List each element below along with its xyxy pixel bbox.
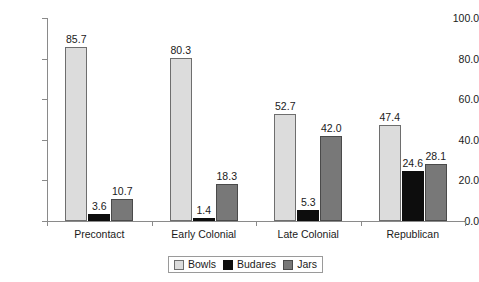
category-label-late-colonial: Late Colonial [256, 228, 361, 240]
category-label-republican: Republican [361, 228, 466, 240]
legend-label: Budares [237, 259, 276, 270]
bar-value-label: 42.0 [314, 123, 348, 134]
plot-area: 85.73.610.780.31.418.352.75.342.047.424.… [47, 18, 465, 221]
bar-value-label: 18.3 [210, 171, 244, 182]
legend-label: Bowls [188, 259, 216, 270]
bar-budares-late-colonial [297, 210, 319, 221]
category-label-early-colonial: Early Colonial [152, 228, 257, 240]
bar-jars-republican [425, 164, 447, 221]
legend-item-budares[interactable]: Budares [223, 259, 276, 270]
legend-label: Jars [297, 259, 317, 270]
bar-value-label: 52.7 [268, 101, 302, 112]
bar-value-label: 80.3 [164, 45, 198, 56]
bar-budares-early-colonial [193, 218, 215, 221]
bar-chart: 0.020.040.060.080.0100.0 85.73.610.780.3… [0, 0, 479, 282]
bar-value-label: 47.4 [373, 112, 407, 123]
bar-bowls-precontact [65, 47, 87, 221]
bar-value-label: 28.1 [419, 151, 453, 162]
bar-jars-early-colonial [216, 184, 238, 221]
bar-jars-late-colonial [320, 136, 342, 221]
chart-legend: BowlsBudaresJars [168, 256, 323, 273]
x-axis-tick [465, 221, 466, 226]
legend-item-bowls[interactable]: Bowls [174, 259, 216, 270]
bar-bowls-early-colonial [170, 58, 192, 221]
legend-item-jars[interactable]: Jars [283, 259, 317, 270]
x-axis-tick [256, 221, 257, 226]
x-axis-tick [361, 221, 362, 226]
bar-jars-precontact [111, 199, 133, 221]
legend-swatch-bowls [174, 260, 184, 270]
bar-value-label: 10.7 [105, 186, 139, 197]
x-axis-tick [47, 221, 48, 226]
bar-value-label: 85.7 [59, 34, 93, 45]
legend-swatch-budares [223, 260, 233, 270]
bar-budares-precontact [88, 214, 110, 221]
bar-bowls-republican [379, 125, 401, 221]
x-axis-tick [152, 221, 153, 226]
legend-swatch-jars [283, 260, 293, 270]
bar-budares-republican [402, 171, 424, 221]
category-label-precontact: Precontact [47, 228, 152, 240]
